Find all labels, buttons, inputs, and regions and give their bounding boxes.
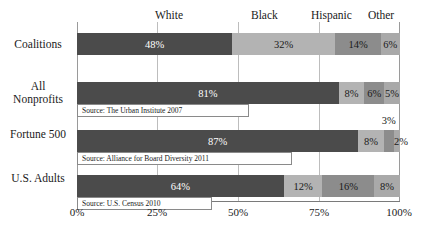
bar-value-label: 16% <box>339 181 358 192</box>
bar-value-label: 48% <box>145 39 164 50</box>
bar-segment-other: 6% <box>381 33 400 55</box>
bar-value-label: 8% <box>380 181 394 192</box>
bar-value-label: 8% <box>364 136 378 147</box>
bar-value-label: 6% <box>367 88 381 99</box>
source-note-us-adults: Source: U.S. Census 2010 <box>77 197 212 210</box>
bar-segment-black: 8% <box>358 130 384 152</box>
column-header-white: White <box>155 9 183 22</box>
plot-area: 48% 32% 14% 6% 81% 8% 6% 5% <box>77 22 400 202</box>
category-label-coalitions: Coalitions <box>0 38 76 51</box>
bar-segment-hispanic: 16% <box>322 175 374 197</box>
category-label-line1: All <box>0 80 76 93</box>
bar-value-label: 64% <box>171 181 190 192</box>
bar-row-coalitions: 48% 32% 14% 6% <box>77 33 400 55</box>
source-note-all-nonprofits: Source: The Urban Institute 2007 <box>77 104 249 117</box>
stacked-bar-chart: White Black Hispanic Other Coalitions Al… <box>0 0 423 237</box>
bar-row-us-adults: 64% 12% 16% 8% <box>77 175 400 197</box>
bar-value-label: 87% <box>208 136 227 147</box>
column-header-other: Other <box>368 9 394 22</box>
bar-value-label: 6% <box>383 39 397 50</box>
column-header-hispanic: Hispanic <box>311 9 352 22</box>
bar-value-label: 2% <box>394 136 408 147</box>
bar-segment-white: 64% <box>77 175 284 197</box>
category-label-line2: Nonprofits <box>0 93 76 106</box>
bar-segment-black: 32% <box>232 33 335 55</box>
bar-segment-white: 81% <box>77 82 339 104</box>
x-tick-label-0: 0% <box>70 206 85 218</box>
bar-value-label: 14% <box>348 39 367 50</box>
bar-value-label: 32% <box>274 39 293 50</box>
x-tick-label-75: 75% <box>309 206 329 218</box>
column-header-black: Black <box>251 9 278 22</box>
bar-row-fortune-500: 87% 8% 3% 2% <box>77 130 400 152</box>
source-note-fortune-500: Source: Alliance for Board Diversity 201… <box>77 152 292 165</box>
bar-value-label: 81% <box>198 88 217 99</box>
bar-value-label: 5% <box>385 88 399 99</box>
category-label-all-nonprofits: All Nonprofits <box>0 80 76 105</box>
bar-segment-black: 12% <box>284 175 323 197</box>
bar-segment-hispanic: 3% <box>384 130 394 152</box>
bar-row-all-nonprofits: 81% 8% 6% 5% <box>77 82 400 104</box>
bar-value-label: 3% <box>382 115 396 126</box>
category-label-us-adults: U.S. Adults <box>0 172 76 185</box>
x-tick-label-50: 50% <box>228 206 248 218</box>
bar-value-label: 8% <box>345 88 359 99</box>
bar-segment-hispanic: 6% <box>364 82 383 104</box>
x-tick-label-25: 25% <box>147 206 167 218</box>
category-label-fortune-500: Fortune 500 <box>0 128 76 141</box>
bar-segment-white: 87% <box>77 130 358 152</box>
bar-segment-other: 8% <box>374 175 400 197</box>
bar-segment-hispanic: 14% <box>335 33 380 55</box>
bar-segment-other: 2% <box>394 130 400 152</box>
bar-segment-other: 5% <box>384 82 400 104</box>
bar-segment-black: 8% <box>339 82 365 104</box>
bar-segment-white: 48% <box>77 33 232 55</box>
x-tick-label-100: 100% <box>386 206 412 218</box>
bar-value-label: 12% <box>293 181 312 192</box>
